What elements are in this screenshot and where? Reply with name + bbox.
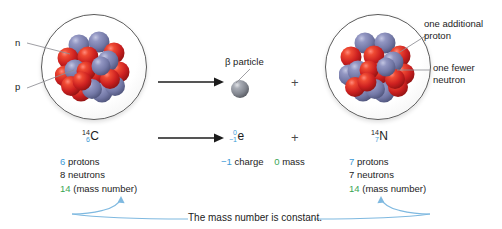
right-stats-block: 7 protons 7 neutrons 14 (mass number) (349, 155, 426, 195)
proton-label: p (15, 81, 20, 92)
callout-fewer-neutron-line2: neutron (433, 74, 465, 85)
right-mass-row: 14 (mass number) (349, 182, 426, 195)
center-stats-block: −1 charge 0 mass (221, 155, 305, 168)
electron-mass-number: 0 (229, 129, 237, 136)
center-charge-row: −1 charge (221, 156, 266, 167)
right-mass-label: (mass number) (362, 183, 426, 194)
carbon-symbol: C (90, 129, 99, 143)
callout-fewer-neutron: one fewer neutron (433, 62, 475, 85)
left-neutrons-label: neutrons (68, 169, 105, 180)
beta-particle-label: β particle (225, 56, 264, 67)
left-protons-value: 6 (60, 156, 65, 167)
left-stats-block: 6 protons 8 neutrons 14 (mass number) (60, 155, 137, 195)
left-neutrons-value: 8 (60, 169, 65, 180)
nitrogen-atomic-number: 7 (371, 136, 379, 143)
plus-sign-top: + (291, 76, 299, 89)
carbon-14-numbers: 14 6 (82, 129, 90, 143)
callout-additional-proton-line1: one additional (424, 18, 483, 29)
left-protons-label: protons (68, 156, 100, 167)
right-protons-label: protons (357, 156, 389, 167)
neutron-label: n (15, 37, 20, 48)
electron-charge-number: −1 (229, 136, 237, 143)
center-mass-row: 0 mass (266, 156, 305, 167)
center-mass-label: mass (282, 156, 305, 167)
right-neutrons-row: 7 neutrons (349, 168, 426, 181)
isotope-beta-electron: 0 −1 e (229, 128, 244, 143)
callout-additional-proton-line2: proton (424, 30, 451, 41)
electron-symbol: e (237, 129, 244, 143)
left-mass-label: (mass number) (73, 183, 137, 194)
top-reaction-arrow (158, 76, 226, 88)
carbon-atomic-number: 6 (82, 136, 90, 143)
mass-number-caption: The mass number is constant. (188, 212, 322, 223)
beta-leader-line (232, 67, 256, 85)
left-mass-row: 14 (mass number) (60, 182, 137, 195)
center-mass-value: 0 (274, 156, 279, 167)
right-protons-value: 7 (349, 156, 354, 167)
left-mass-value: 14 (60, 183, 71, 194)
isotope-nitrogen-14: 14 7 N (371, 128, 388, 143)
left-neutrons-row: 8 neutrons (60, 168, 137, 181)
center-charge-label: charge (234, 156, 263, 167)
plus-sign-equation: + (291, 131, 299, 144)
right-protons-row: 7 protons (349, 155, 426, 168)
callout-fewer-neutron-line1: one fewer (433, 62, 475, 73)
carbon-mass-number: 14 (82, 129, 90, 136)
right-mass-value: 14 (349, 183, 360, 194)
nitrogen-mass-number: 14 (371, 129, 379, 136)
right-neutrons-value: 7 (349, 169, 354, 180)
electron-numbers: 0 −1 (229, 129, 237, 143)
left-protons-row: 6 protons (60, 155, 137, 168)
left-leader-lines (18, 36, 88, 94)
equation-reaction-arrow (158, 132, 226, 144)
center-charge-value: −1 (221, 156, 232, 167)
isotope-carbon-14: 14 6 C (82, 128, 99, 143)
nitrogen-14-numbers: 14 7 (371, 129, 379, 143)
right-neutrons-label: neutrons (357, 169, 394, 180)
nitrogen-symbol: N (379, 129, 388, 143)
callout-additional-proton: one additional proton (424, 18, 483, 41)
beta-decay-diagram: n p β particle + (0, 0, 502, 229)
